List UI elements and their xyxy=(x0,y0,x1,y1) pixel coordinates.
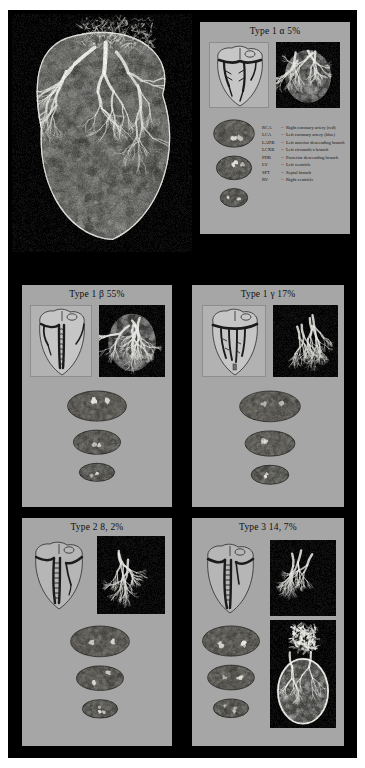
legend-row: LCXB = Left circumflex branch xyxy=(262,146,348,153)
diagram-svg-type-1-alpha xyxy=(210,43,269,108)
photo-canvas-type-2 xyxy=(97,536,165,614)
cross-section-canvas-type-1-gamma xyxy=(237,387,303,501)
photo-type-3-lower: Corrosion cast photograph, Type 3 (lower… xyxy=(270,620,336,728)
legend-definition: Right coronary artery (red) xyxy=(286,124,348,131)
cross-section-canvas-type-1-beta xyxy=(65,387,129,499)
legend-definition: Posterior descending branch xyxy=(286,154,348,161)
legend-row: RCA = Right coronary artery (red) xyxy=(262,124,348,131)
photo-type-3-upper: Corrosion cast photograph, Type 3 (upper… xyxy=(270,540,336,616)
panel-type-1-beta[interactable]: Type 1 β 55% xyxy=(22,285,172,507)
legend-abbr: LV xyxy=(262,161,281,168)
cross-section-canvas-type-3 xyxy=(200,622,262,734)
panel-title-type-3: Type 3 14, 7% xyxy=(192,518,344,535)
diagram-type-3: Schematic of Type 3 coronary branching xyxy=(200,540,262,616)
diagram-type-1-alpha: Schematic of Type 1 alpha coronary branc… xyxy=(209,42,269,108)
diagram-svg-type-2 xyxy=(28,538,92,612)
legend-row: RV = Right ventricle xyxy=(262,176,348,183)
photo-canvas-type-1-gamma xyxy=(273,305,338,377)
photo-type-1-alpha: Corrosion cast photograph, Type 1 alpha xyxy=(276,42,340,108)
cross-sections-type-1-alpha xyxy=(210,116,258,226)
legend-abbr: LADB xyxy=(262,139,281,146)
panel-type-1-gamma[interactable]: Type 1 γ 17% Schematic of Type 1 gamma c… xyxy=(192,285,344,507)
legend-abbr: SPT xyxy=(262,169,281,176)
legend-abbr: PDB xyxy=(262,154,281,161)
panel-type-1-alpha[interactable]: Type 1 α 5% Schematic of Type 1 alpha co… xyxy=(200,22,350,234)
diagram-type-1-gamma: Schematic of Type 1 gamma coronary branc… xyxy=(202,305,266,377)
figure-frame: Whole-heart coronary arterial corrosion … xyxy=(8,10,357,758)
panel-title-type-1-gamma: Type 1 γ 17% xyxy=(192,285,344,302)
legend-row: PDB = Posterior descending branch xyxy=(262,154,348,161)
diagram-svg-type-1-gamma xyxy=(203,306,266,377)
legend-definition: Septal branch xyxy=(286,169,348,176)
photo-canvas-type-1-alpha xyxy=(276,42,340,108)
legend-row: LV = Left ventricle xyxy=(262,161,348,168)
legend-definition: Left coronary artery (blue) xyxy=(286,131,348,138)
legend-definition: Left ventricle xyxy=(286,161,348,168)
photo-type-1-gamma: Corrosion cast photograph, Type 1 gamma xyxy=(273,305,338,377)
legend-abbr: LCXB xyxy=(262,146,281,153)
panel-title-type-1-beta: Type 1 β 55% xyxy=(22,285,172,302)
photo-canvas-type-1-beta xyxy=(99,305,165,377)
cross-sections-type-1-gamma xyxy=(237,387,303,501)
legend-row: LADB = Left anterior descending branch xyxy=(262,139,348,146)
cross-sections-type-2 xyxy=(68,622,132,736)
legend-definition: Left circumflex branch xyxy=(286,146,348,153)
diagram-svg-type-3 xyxy=(200,540,262,616)
panel-title-type-2: Type 2 8, 2% xyxy=(22,518,172,535)
abbreviation-legend: RCA = Right coronary artery (red) LCA = … xyxy=(262,124,348,184)
diagram-type-1-beta: Schematic of Type 1 beta coronary branch… xyxy=(30,305,92,377)
specimen-overview-photo: Whole-heart coronary arterial corrosion … xyxy=(12,14,192,252)
legend-row: SPT = Septal branch xyxy=(262,169,348,176)
specimen-cast-canvas xyxy=(12,14,192,252)
cross-section-canvas-type-2 xyxy=(68,622,132,736)
legend-abbr: RV xyxy=(262,176,281,183)
cross-sections-type-1-beta xyxy=(65,387,129,499)
panel-type-2[interactable]: Type 2 8, 2% Schematic of Type xyxy=(22,518,172,746)
legend-abbr: RCA xyxy=(262,124,281,131)
photo-type-2: Corrosion cast photograph, Type 2 xyxy=(97,536,165,614)
photo-canvas-type-3-upper xyxy=(270,540,336,616)
legend-definition: Left anterior descending branch xyxy=(286,139,348,146)
cross-sections-type-3 xyxy=(200,622,262,734)
diagram-svg-type-1-beta xyxy=(31,306,92,377)
photo-type-1-beta: Corrosion cast photograph, Type 1 beta xyxy=(99,305,165,377)
photo-canvas-type-3-lower xyxy=(270,620,336,728)
panel-title-type-1-alpha: Type 1 α 5% xyxy=(200,22,350,39)
cross-section-canvas-type-1-alpha xyxy=(210,116,258,226)
panel-type-3[interactable]: Type 3 14, 7% Schematic of Type 3 corona xyxy=(192,518,344,746)
legend-row: LCA = Left coronary artery (blue) xyxy=(262,131,348,138)
legend-abbr: LCA xyxy=(262,131,281,138)
diagram-type-2: Schematic of Type 2 coronary branching xyxy=(28,538,92,612)
legend-definition: Right ventricle xyxy=(286,176,348,183)
